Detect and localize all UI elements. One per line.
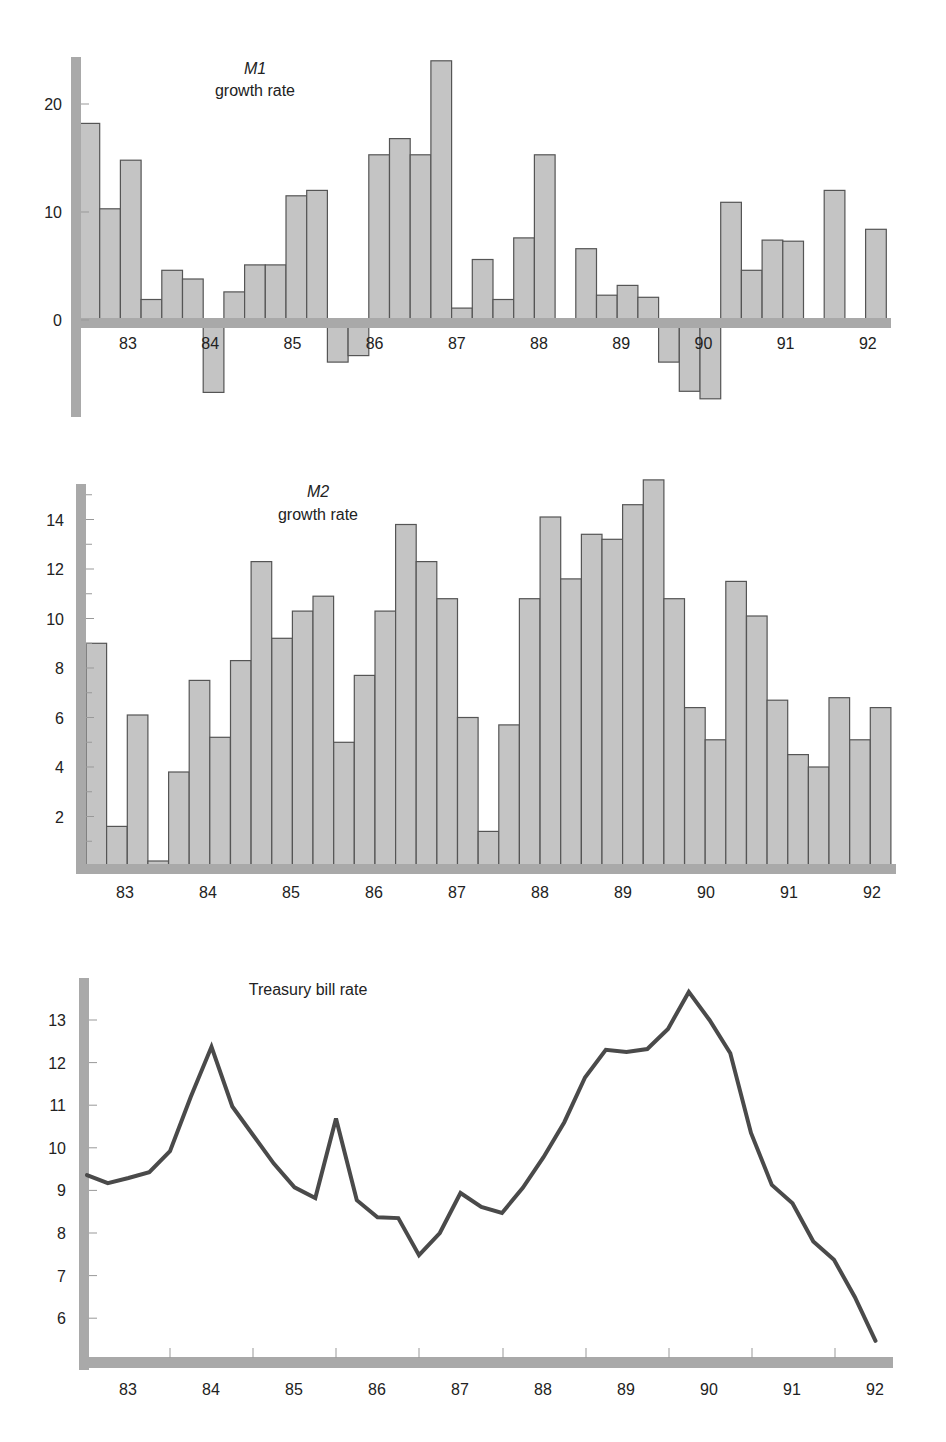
m2-bar: [107, 826, 128, 866]
tbill-title: Treasury bill rate: [249, 981, 368, 998]
m1-bar: [203, 320, 224, 392]
m1-bar: [824, 190, 845, 320]
m1-bar: [576, 249, 597, 320]
m2-bar: [705, 740, 726, 866]
m1-x-tick-label: 91: [777, 335, 795, 352]
tbill-x-tick-label: 91: [783, 1381, 801, 1398]
m1-bar: [741, 270, 762, 320]
m2-bar: [685, 708, 706, 866]
m2-title-symbol: M2: [307, 483, 329, 500]
m2-y-axis: [76, 484, 86, 874]
m1-x-tick-label: 84: [201, 335, 219, 352]
m1-x-tick-label: 83: [119, 335, 137, 352]
m2-bar: [747, 616, 768, 866]
tbill-x-axis: [79, 1357, 893, 1368]
m2-bar: [127, 715, 148, 866]
m2-x-tick-label: 86: [365, 884, 383, 901]
m2-bar: [437, 599, 458, 866]
m1-bar: [224, 292, 245, 320]
m2-bar: [540, 517, 561, 866]
m2-y-tick-label: 14: [46, 512, 64, 529]
tbill-points: [87, 992, 876, 1341]
m1-bar: [390, 139, 411, 320]
tbill-y-tick-label: 10: [48, 1140, 66, 1157]
m1-growth-chart: M1 growth rate 01020 8384858687888990919…: [44, 57, 891, 417]
m1-x-tick-label: 92: [859, 335, 877, 352]
m1-x-tick-label: 90: [695, 335, 713, 352]
m2-y-tick-label: 8: [55, 660, 64, 677]
m2-bar: [375, 611, 396, 866]
m1-bar: [410, 155, 431, 320]
m1-y-tick-label: 20: [44, 96, 62, 113]
m1-bar: [700, 320, 721, 399]
tbill-x-tick-label: 90: [700, 1381, 718, 1398]
tbill-y-ticks: 678910111213: [48, 1012, 97, 1327]
m1-bar: [617, 285, 638, 320]
m1-bar: [307, 190, 328, 320]
m2-y-tick-label: 6: [55, 710, 64, 727]
m1-x-tick-label: 88: [530, 335, 548, 352]
tbill-y-tick-label: 13: [48, 1012, 66, 1029]
tbill-x-tick-label: 89: [617, 1381, 635, 1398]
m1-x-tick-label: 85: [284, 335, 302, 352]
m2-x-tick-labels: 83848586878889909192: [116, 884, 881, 901]
m1-bars: [79, 61, 886, 399]
tbill-x-tick-label: 88: [534, 1381, 552, 1398]
m2-x-tick-label: 88: [531, 884, 549, 901]
m1-bar: [369, 155, 390, 320]
m2-bar: [499, 725, 520, 866]
m1-y-tick-label: 0: [53, 312, 62, 329]
m1-x-tick-label: 89: [612, 335, 630, 352]
m1-bar: [866, 229, 887, 320]
m1-bar: [679, 320, 700, 391]
m1-bar: [472, 260, 493, 321]
m2-growth-chart: M2 growth rate 2468101214 83848586878889…: [46, 480, 896, 901]
m2-title: growth rate: [278, 506, 358, 523]
m1-bar: [162, 270, 183, 320]
tbill-y-tick-label: 12: [48, 1055, 66, 1072]
tbill-y-tick-label: 7: [57, 1268, 66, 1285]
m1-bar: [183, 279, 204, 320]
m1-bar: [431, 61, 452, 320]
m1-bar: [534, 155, 555, 320]
m1-bar: [638, 297, 659, 320]
m2-x-tick-label: 85: [282, 884, 300, 901]
m1-bar: [514, 238, 535, 320]
m2-bar: [396, 525, 417, 867]
m1-bar: [245, 265, 266, 320]
m2-x-tick-label: 87: [448, 884, 466, 901]
tbill-y-tick-label: 6: [57, 1310, 66, 1327]
tbill-x-tick-label: 86: [368, 1381, 386, 1398]
m1-bar: [762, 240, 783, 320]
m1-x-axis: [71, 318, 891, 328]
m2-x-axis: [76, 864, 896, 874]
m2-bar: [416, 562, 437, 866]
tbill-y-tick-label: 8: [57, 1225, 66, 1242]
m1-bar: [265, 265, 286, 320]
m2-bar: [581, 534, 602, 866]
m1-bar: [120, 160, 141, 320]
m2-x-tick-label: 91: [780, 884, 798, 901]
m2-bar: [354, 675, 375, 866]
m2-x-tick-label: 83: [116, 884, 134, 901]
tbill-series-line: [87, 992, 876, 1341]
m1-y-axis: [71, 57, 81, 417]
treasury-bill-chart: Treasury bill rate 678910111213 83848586…: [48, 978, 893, 1398]
m2-bar: [292, 611, 313, 866]
tbill-x-tick-label: 84: [202, 1381, 220, 1398]
tbill-y-tick-label: 9: [57, 1182, 66, 1199]
m1-x-tick-labels: 83848586878889909192: [119, 335, 877, 352]
tbill-y-tick-label: 11: [49, 1097, 66, 1114]
m1-bar: [79, 123, 100, 320]
m2-bar: [458, 718, 479, 867]
m2-bar: [272, 638, 293, 866]
m2-bar: [169, 772, 190, 866]
m2-bar: [870, 708, 891, 866]
m2-bar: [313, 596, 334, 866]
m1-bar: [100, 209, 121, 320]
m2-bar: [623, 505, 644, 866]
m1-bar: [493, 300, 514, 321]
m2-bar: [829, 698, 850, 866]
m2-bar: [726, 581, 747, 866]
tbill-x-tick-labels: 83848586878889909192: [119, 1381, 884, 1398]
